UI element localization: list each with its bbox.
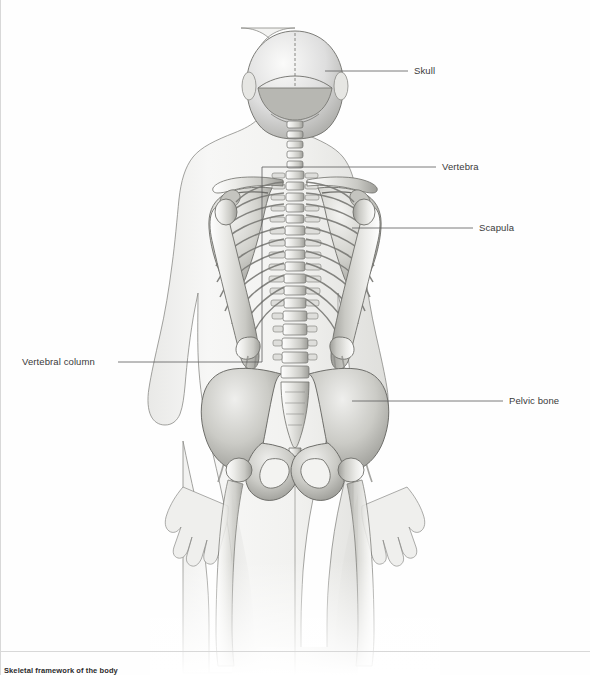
label-pelvic-bone: Pelvic bone [509,396,559,406]
label-skull: Skull [414,66,435,76]
caption-rule [0,651,590,652]
label-vertebra: Vertebra [442,162,479,172]
label-scapula: Scapula [479,223,514,233]
page-left-rule [0,0,1,675]
label-vertebral-column: Vertebral column [22,357,95,367]
figure-canvas: Skull Vertebra Scapula Vertebral column … [0,0,590,675]
skeleton-group [150,31,440,675]
skeleton-illustration [0,0,590,675]
figure-caption: Skeletal framework of the body [4,666,118,675]
